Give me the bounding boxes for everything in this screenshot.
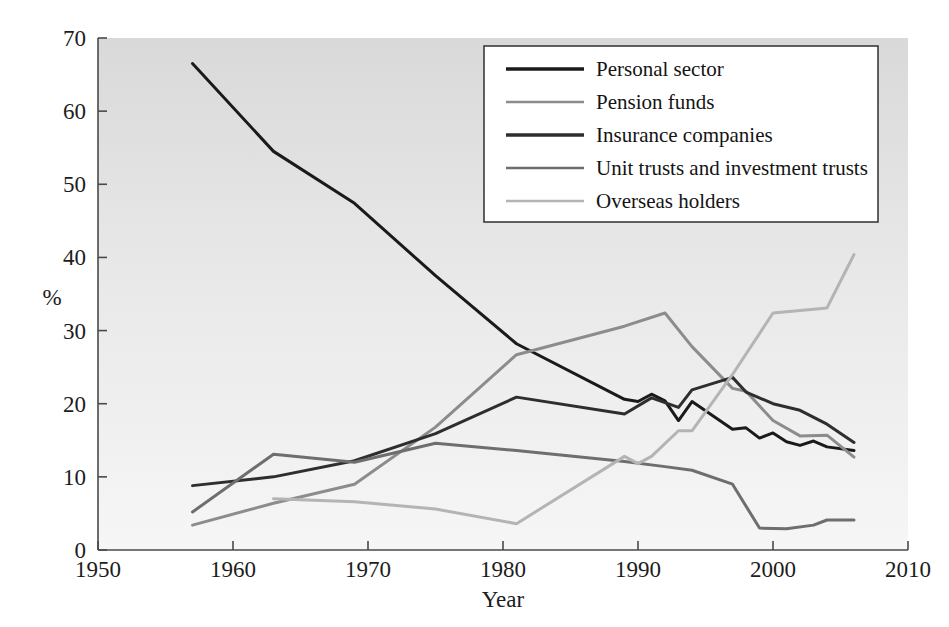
x-tick-label: 1960 [210, 557, 256, 582]
x-axis-tick-labels: 1950196019701980199020002010 [75, 557, 931, 582]
x-tick-label: 2000 [750, 557, 796, 582]
line-chart: 010203040506070 195019601970198019902000… [0, 0, 949, 627]
x-axis-title: Year [482, 587, 525, 612]
y-axis-title: % [42, 285, 61, 310]
y-tick-label: 10 [63, 465, 86, 490]
y-tick-label: 60 [63, 99, 86, 124]
legend-label: Unit trusts and investment trusts [596, 156, 868, 180]
x-tick-label: 2010 [885, 557, 931, 582]
x-tick-label: 1970 [345, 557, 391, 582]
chart-figure: 010203040506070 195019601970198019902000… [0, 0, 949, 627]
legend-label: Overseas holders [596, 189, 740, 213]
y-tick-label: 30 [63, 319, 86, 344]
y-axis-tick-labels: 010203040506070 [63, 26, 86, 563]
x-tick-label: 1950 [75, 557, 121, 582]
y-tick-label: 40 [63, 245, 86, 270]
y-tick-label: 70 [63, 26, 86, 51]
legend-label: Pension funds [596, 90, 714, 114]
legend-label: Personal sector [596, 57, 724, 81]
chart-legend: Personal sectorPension fundsInsurance co… [484, 46, 878, 222]
y-tick-label: 50 [63, 172, 86, 197]
x-tick-label: 1990 [615, 557, 661, 582]
x-tick-label: 1980 [480, 557, 526, 582]
legend-label: Insurance companies [596, 123, 773, 147]
y-tick-label: 20 [63, 392, 86, 417]
